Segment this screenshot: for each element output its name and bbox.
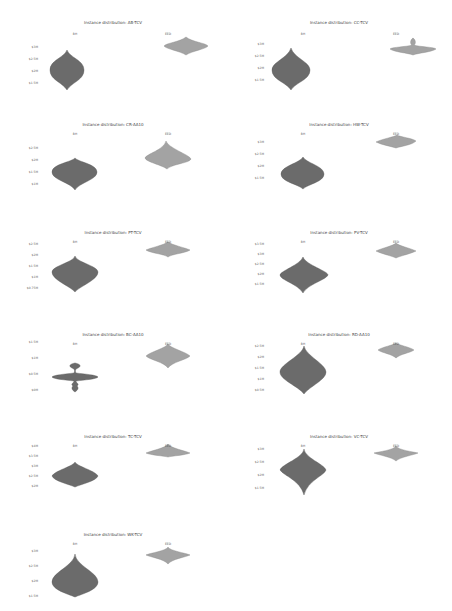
y-tick-label: $2.5M xyxy=(18,57,38,61)
chart-title: Instance distribution: WK-TCV xyxy=(0,532,226,537)
violin-right xyxy=(390,38,436,55)
violin-left xyxy=(281,157,324,189)
y-tick-label: $0.75M xyxy=(18,286,38,290)
category-label: EED xyxy=(386,342,406,346)
violin-right xyxy=(146,344,190,368)
y-tick-label: $3M xyxy=(18,45,38,49)
category-label: EED xyxy=(158,444,178,448)
violin-left xyxy=(280,449,326,495)
y-tick-label: $1.5M xyxy=(244,176,264,180)
y-tick-label: $3.5M xyxy=(18,454,38,458)
chart-title: Instance distribution: CR-AA10 xyxy=(0,122,226,127)
y-tick-label: $3M xyxy=(18,549,38,553)
y-tick-label: $1M xyxy=(244,377,264,381)
y-tick-label: $4M xyxy=(18,444,38,448)
category-label: BH xyxy=(293,240,313,244)
chart-title: Instance distribution: PV-TCV xyxy=(226,230,452,235)
violin-left xyxy=(52,554,98,597)
y-tick-label: $2M xyxy=(18,69,38,73)
category-label: BH xyxy=(65,132,85,136)
violin-left xyxy=(50,50,84,90)
violin-shapes xyxy=(0,0,452,611)
y-tick-label: $2.5M xyxy=(18,242,38,246)
y-tick-label: $1M xyxy=(18,356,38,360)
category-label: EED xyxy=(158,32,178,36)
y-tick-label: $2.5M xyxy=(244,262,264,266)
y-tick-label: $1.5M xyxy=(18,264,38,268)
category-label: EED xyxy=(386,132,406,136)
y-tick-label: $2M xyxy=(18,158,38,162)
chart-title: Instance distribution: CC-TCV xyxy=(226,20,452,25)
violin-left xyxy=(280,257,328,293)
chart-title: Instance distribution: AB-TCV xyxy=(0,20,226,25)
category-label: BH xyxy=(65,240,85,244)
y-tick-label: $3M xyxy=(244,447,264,451)
category-label: BH xyxy=(65,444,85,448)
chart-title: Instance distribution: RD-AA10 xyxy=(226,332,452,337)
category-label: BH xyxy=(293,132,313,136)
y-tick-label: $2.5M xyxy=(244,54,264,58)
violin-right xyxy=(164,37,208,55)
violin-right xyxy=(146,242,190,257)
category-label: BH xyxy=(65,32,85,36)
category-label: EED xyxy=(386,444,406,448)
violin-right xyxy=(146,547,190,564)
violin-right xyxy=(145,141,191,169)
category-label: BH xyxy=(293,32,313,36)
y-tick-label: $1.5M xyxy=(18,170,38,174)
violin-left xyxy=(280,346,326,394)
category-label: BH xyxy=(65,342,85,346)
violin-left xyxy=(272,48,310,90)
chart-title: Instance distribution: PT-TCV xyxy=(0,230,226,235)
chart-title: Instance distribution: VC-TCV xyxy=(226,434,452,439)
y-tick-label: $2M xyxy=(244,272,264,276)
y-tick-label: $2.5M xyxy=(18,564,38,568)
y-tick-label: $2.5M xyxy=(244,152,264,156)
y-tick-label: $2M xyxy=(244,473,264,477)
y-tick-label: $2.5M xyxy=(18,146,38,150)
y-tick-label: $1.5M xyxy=(18,340,38,344)
y-tick-label: $0.5M xyxy=(244,388,264,392)
y-tick-label: $3M xyxy=(244,42,264,46)
y-tick-label: $2M xyxy=(18,579,38,583)
category-label: EED xyxy=(158,132,178,136)
category-label: BH xyxy=(293,444,313,448)
chart-title: Instance distribution: BC-AA10 xyxy=(0,332,226,337)
y-tick-label: $1.5M xyxy=(244,486,264,490)
category-label: EED xyxy=(158,240,178,244)
y-tick-label: $2M xyxy=(18,253,38,257)
y-tick-label: $1.5M xyxy=(18,81,38,85)
chart-title: Instance distribution: HW-TCV xyxy=(226,122,452,127)
y-tick-label: $1.5M xyxy=(18,594,38,598)
y-tick-label: $3M xyxy=(244,252,264,256)
category-label: EED xyxy=(158,542,178,546)
violin-left xyxy=(52,462,98,487)
y-tick-label: $2M xyxy=(244,66,264,70)
y-tick-label: $2.5M xyxy=(244,344,264,348)
y-tick-label: $1M xyxy=(18,182,38,186)
y-tick-label: $2M xyxy=(244,164,264,168)
y-tick-label: $2M xyxy=(244,355,264,359)
violin-left xyxy=(52,158,97,190)
category-label: BH xyxy=(293,342,313,346)
y-tick-label: $1.5M xyxy=(244,282,264,286)
y-tick-label: $1.5M xyxy=(244,78,264,82)
y-tick-label: $3M xyxy=(18,464,38,468)
violin-right xyxy=(376,243,416,258)
category-label: EED xyxy=(158,342,178,346)
y-tick-label: $3.5M xyxy=(244,242,264,246)
violin-left xyxy=(52,256,98,292)
y-tick-label: $2.5M xyxy=(18,474,38,478)
y-tick-label: $2.5M xyxy=(244,460,264,464)
chart-title: Instance distribution: TC-TCV xyxy=(0,434,226,439)
y-tick-label: $1.5M xyxy=(244,366,264,370)
category-label: EED xyxy=(386,240,406,244)
y-tick-label: $3M xyxy=(244,140,264,144)
category-label: BH xyxy=(65,542,85,546)
violin-right xyxy=(374,446,418,461)
violin-left xyxy=(52,363,98,392)
y-tick-label: $0M xyxy=(18,388,38,392)
violin-right xyxy=(376,135,416,148)
y-tick-label: $0.5M xyxy=(18,372,38,376)
y-tick-label: $2M xyxy=(18,484,38,488)
